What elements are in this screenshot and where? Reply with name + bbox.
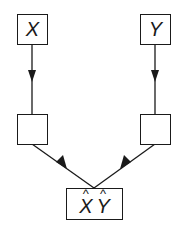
node-x-label: X (26, 18, 39, 41)
y-hat-label: Y (97, 195, 110, 218)
x-hat-label: X (79, 195, 92, 218)
node-right-mid (140, 114, 171, 145)
arrowhead-icon (28, 70, 36, 82)
node-y: Y (140, 14, 171, 45)
node-y-label: Y (149, 18, 162, 41)
arrowhead-icon (120, 155, 131, 169)
arrowhead-icon (56, 155, 67, 169)
node-x: X (17, 14, 48, 45)
arrowhead-icon (151, 70, 159, 82)
node-left-mid (17, 114, 48, 145)
node-output: X Y (66, 188, 123, 220)
